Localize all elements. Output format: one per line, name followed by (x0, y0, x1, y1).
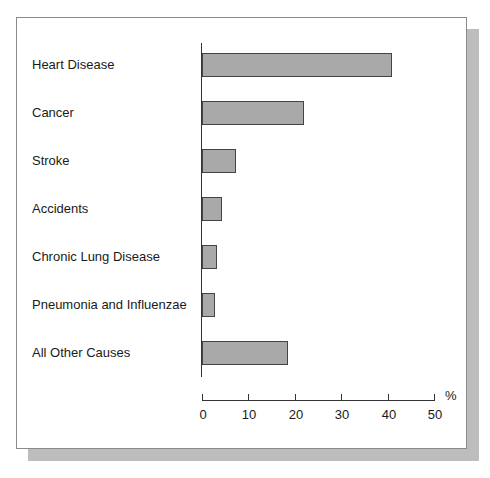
x-tick (434, 394, 435, 401)
x-tick-label: 30 (335, 407, 349, 423)
bar (202, 197, 222, 221)
x-tick (248, 394, 249, 401)
bar (202, 101, 304, 125)
chart-frame (16, 17, 467, 449)
x-tick-label: 0 (199, 407, 206, 423)
x-tick (341, 394, 342, 401)
bar (202, 293, 215, 317)
x-tick-label: 10 (242, 407, 256, 423)
category-label: Heart Disease (32, 57, 114, 73)
x-axis-line (202, 400, 435, 401)
category-label: Pneumonia and Influenzae (32, 297, 187, 313)
x-tick-label: 20 (289, 407, 303, 423)
x-tick (202, 394, 203, 401)
category-label: Stroke (32, 153, 70, 169)
category-label: Cancer (32, 105, 74, 121)
x-tick (295, 394, 296, 401)
x-tick-label: 50 (428, 407, 442, 423)
bar (202, 245, 217, 269)
bar (202, 149, 236, 173)
x-axis-unit-label: % (445, 388, 457, 404)
bar (202, 341, 288, 365)
bar (202, 53, 392, 77)
category-label: Accidents (32, 201, 88, 217)
category-label: All Other Causes (32, 345, 130, 361)
category-label: Chronic Lung Disease (32, 249, 160, 265)
x-tick (388, 394, 389, 401)
x-tick-label: 40 (382, 407, 396, 423)
